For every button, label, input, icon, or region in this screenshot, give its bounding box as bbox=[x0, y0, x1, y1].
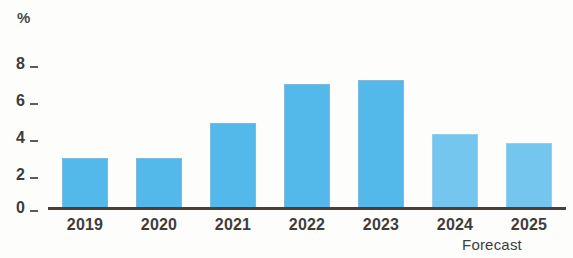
bar-2025 bbox=[506, 143, 552, 208]
y-axis-tick-label-6: 6 bbox=[10, 93, 25, 109]
bar-2020 bbox=[136, 158, 182, 208]
x-axis-label-2024: 2024 bbox=[418, 216, 492, 234]
bar-2022 bbox=[284, 84, 330, 208]
x-axis-label-2023: 2023 bbox=[344, 216, 418, 234]
x-axis-label-2025: 2025 bbox=[492, 216, 566, 234]
bar-2023 bbox=[358, 80, 404, 208]
bar-2021 bbox=[210, 123, 256, 208]
y-axis-tick-label-4: 4 bbox=[10, 130, 25, 146]
forecast-caption: Forecast bbox=[418, 236, 566, 253]
bar-2024 bbox=[432, 134, 478, 208]
y-axis-tick-label-8: 8 bbox=[10, 56, 25, 72]
x-axis-label-2019: 2019 bbox=[48, 216, 122, 234]
bar-chart: % 8 6 4 2 0 2019202020212022202320242025… bbox=[0, 0, 573, 258]
y-axis-tick-label-0: 0 bbox=[10, 200, 25, 216]
y-axis-tick-4: 4 bbox=[10, 130, 48, 146]
y-axis-tick-mark-6 bbox=[30, 103, 38, 105]
y-axis-tick-mark-2 bbox=[30, 177, 38, 179]
plot-area bbox=[48, 12, 566, 208]
y-axis-tick-0: 0 bbox=[10, 200, 48, 216]
y-axis-tick-mark-4 bbox=[30, 140, 38, 142]
y-axis-tick-mark-8 bbox=[30, 66, 38, 68]
x-axis-line bbox=[48, 207, 566, 210]
x-axis-label-2020: 2020 bbox=[122, 216, 196, 234]
y-axis-tick-6: 6 bbox=[10, 93, 48, 109]
y-axis-tick-2: 2 bbox=[10, 167, 48, 183]
x-axis-label-2022: 2022 bbox=[270, 216, 344, 234]
y-axis-tick-mark-0 bbox=[30, 210, 38, 212]
y-axis-unit-label: % bbox=[17, 9, 30, 26]
y-axis-tick-label-2: 2 bbox=[10, 167, 25, 183]
bar-2019 bbox=[62, 158, 108, 208]
y-axis-tick-8: 8 bbox=[10, 56, 48, 72]
x-axis-label-2021: 2021 bbox=[196, 216, 270, 234]
